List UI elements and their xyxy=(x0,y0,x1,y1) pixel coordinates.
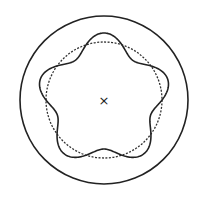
center-cross-marker: × xyxy=(99,93,110,108)
wave-on-circle-diagram: × xyxy=(0,0,199,200)
